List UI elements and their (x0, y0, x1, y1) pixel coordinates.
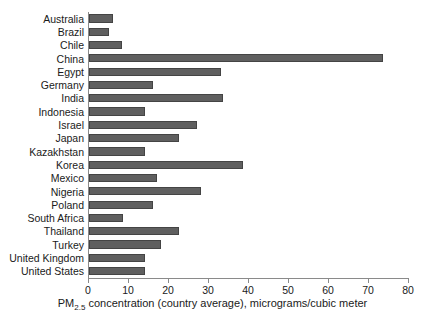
bar-row: Germany (88, 79, 408, 92)
x-axis-tick-label: 40 (242, 284, 254, 296)
x-axis-tick (168, 278, 169, 283)
bar-row: Israel (88, 118, 408, 131)
category-label: Australia (43, 13, 84, 24)
bar (89, 201, 153, 209)
bar-row: Mexico (88, 172, 408, 185)
bar-row: United Kingdom (88, 251, 408, 264)
x-axis-tick (288, 278, 289, 283)
pm25-bar-chart: AustraliaBrazilChileChinaEgyptGermanyInd… (0, 0, 425, 316)
bar (89, 147, 145, 155)
bar (89, 28, 109, 36)
bar (89, 267, 145, 275)
bar-row: Poland (88, 198, 408, 211)
y-axis-line (88, 12, 89, 278)
bar (89, 240, 161, 248)
bar (89, 41, 122, 49)
bar-row: South Africa (88, 212, 408, 225)
bar (89, 14, 113, 22)
category-label: India (61, 93, 84, 104)
category-label: Chile (60, 40, 84, 51)
bar (89, 174, 157, 182)
bar-row: China (88, 52, 408, 65)
bar (89, 81, 153, 89)
x-axis-tick (408, 278, 409, 283)
category-label: Thailand (44, 226, 84, 237)
category-label: Israel (58, 120, 84, 131)
bar-row: Thailand (88, 225, 408, 238)
plot-area: AustraliaBrazilChileChinaEgyptGermanyInd… (88, 12, 408, 278)
category-label: Turkey (52, 239, 84, 250)
x-axis-tick-label: 20 (162, 284, 174, 296)
bar (89, 121, 197, 129)
x-axis-title-pre: PM (58, 297, 75, 309)
category-label: Korea (56, 159, 84, 170)
category-label: Mexico (51, 173, 84, 184)
category-label: South Africa (27, 213, 84, 224)
category-label: United States (21, 266, 84, 277)
bar (89, 161, 243, 169)
category-label: Indonesia (38, 106, 84, 117)
category-label: Poland (51, 199, 84, 210)
bar (89, 227, 179, 235)
x-axis-tick-label: 70 (362, 284, 374, 296)
x-axis-tick (128, 278, 129, 283)
x-axis-tick (88, 278, 89, 283)
x-axis-tick-label: 80 (402, 284, 414, 296)
bar-row: Chile (88, 39, 408, 52)
bar-row: Kazakhstan (88, 145, 408, 158)
x-axis-tick (248, 278, 249, 283)
x-axis-title-subscript: 2.5 (74, 303, 85, 312)
category-label: Kazakhstan (29, 146, 84, 157)
bar-row: Indonesia (88, 105, 408, 118)
x-axis-title: PM2.5 concentration (country average), m… (0, 297, 425, 312)
category-label: Brazil (58, 26, 84, 37)
bar-row: Japan (88, 132, 408, 145)
bar-row: Australia (88, 12, 408, 25)
bar-row: Egypt (88, 65, 408, 78)
bar-row: Turkey (88, 238, 408, 251)
x-axis-tick (368, 278, 369, 283)
x-axis-tick-label: 30 (202, 284, 214, 296)
category-label: Germany (41, 80, 84, 91)
category-label: Japan (55, 133, 84, 144)
bar (89, 187, 201, 195)
bar-row: Nigeria (88, 185, 408, 198)
bar-row: Brazil (88, 25, 408, 38)
x-axis-title-post: concentration (country average), microgr… (85, 297, 367, 309)
x-axis-tick (328, 278, 329, 283)
bar-row: United States (88, 265, 408, 278)
bar (89, 134, 179, 142)
x-axis-tick (208, 278, 209, 283)
category-label: Nigeria (51, 186, 84, 197)
bar-row: India (88, 92, 408, 105)
bar (89, 94, 223, 102)
category-label: United Kingdom (9, 253, 84, 264)
x-axis-tick-label: 50 (282, 284, 294, 296)
bar-row: Korea (88, 158, 408, 171)
bar (89, 68, 221, 76)
bar (89, 214, 123, 222)
x-axis-tick-label: 10 (122, 284, 134, 296)
bar (89, 54, 383, 62)
x-axis-tick-label: 60 (322, 284, 334, 296)
x-axis-tick-label: 0 (85, 284, 91, 296)
bar (89, 107, 145, 115)
category-label: Egypt (57, 66, 84, 77)
bar (89, 254, 145, 262)
category-label: China (57, 53, 84, 64)
